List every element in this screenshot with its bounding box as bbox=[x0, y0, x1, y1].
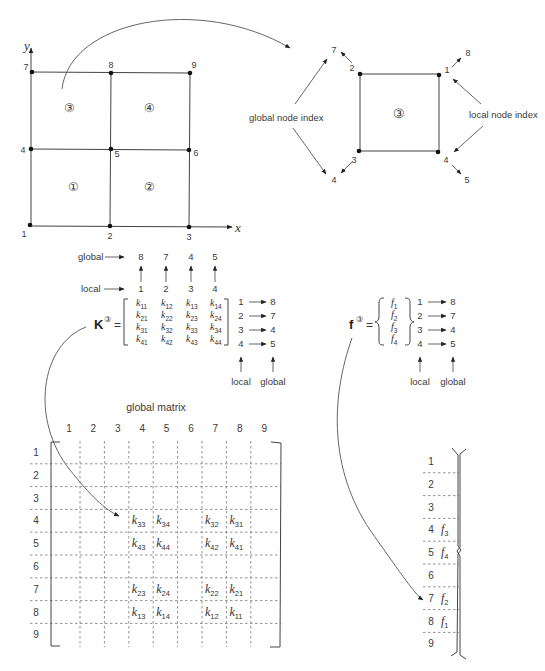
global-col-header: 7 bbox=[213, 423, 219, 434]
right-brace bbox=[405, 298, 414, 345]
stiff-col-local: 1 bbox=[138, 283, 143, 294]
mesh-element-label: ① bbox=[68, 180, 79, 194]
force-row-local: 2 bbox=[417, 310, 422, 321]
force-symbol: f bbox=[349, 317, 354, 332]
force-row-local: 1 bbox=[417, 296, 422, 307]
stiff-col-global: 4 bbox=[188, 251, 193, 262]
mesh-node-label-4: 4 bbox=[20, 145, 25, 155]
global-matrix-entry: k33 bbox=[132, 513, 146, 529]
global-matrix-entry: k31 bbox=[229, 513, 243, 529]
bottom-local-label: local bbox=[231, 376, 251, 387]
global-matrix-entry: k21 bbox=[229, 582, 243, 598]
global-row-header: 8 bbox=[33, 607, 39, 618]
force-bottom-local-label: local bbox=[410, 376, 430, 387]
mesh-node-7 bbox=[30, 70, 35, 75]
global-matrix-entry: k14 bbox=[156, 605, 170, 621]
local-node-3: 3 bbox=[351, 155, 356, 165]
global-matrix-entry: k22 bbox=[205, 582, 219, 598]
global-matrix-column-headers: 123456789 bbox=[66, 423, 267, 434]
stiff-row-local: 4 bbox=[238, 338, 243, 349]
stiffness-entries: k11k12k13k14k21k22k23k24k31k32k33k34k41k… bbox=[136, 297, 222, 346]
stiffness-equals: = bbox=[114, 318, 121, 332]
force-entry: f4 bbox=[391, 333, 398, 346]
global-vector-row-header: 1 bbox=[428, 456, 434, 467]
local-node-1: 1 bbox=[444, 65, 449, 75]
left-brace bbox=[375, 298, 384, 345]
global-left-bracket bbox=[51, 442, 60, 646]
stiffness-assembly-arrow bbox=[45, 327, 119, 516]
mesh-node-label-2: 2 bbox=[107, 231, 112, 241]
global-vector-row-header: 9 bbox=[428, 638, 434, 649]
mesh-nodes: 123456789 bbox=[20, 60, 198, 242]
stiff-row-local: 3 bbox=[238, 324, 243, 335]
force-row-local: 3 bbox=[417, 324, 422, 335]
global-node-8: 8 bbox=[465, 48, 470, 58]
mesh-node-8 bbox=[109, 71, 114, 76]
y-axis-label: y bbox=[22, 38, 30, 53]
global-matrix-title: global matrix bbox=[126, 401, 186, 413]
force-row-global: 8 bbox=[450, 296, 455, 307]
mesh-element-label: ④ bbox=[144, 101, 155, 115]
global-matrix-entry: k23 bbox=[132, 582, 146, 598]
stiffness-superscript: ③ bbox=[104, 315, 111, 324]
global-matrix-entry: k34 bbox=[156, 513, 170, 529]
mesh-node-4 bbox=[29, 147, 34, 152]
mesh-node-label-5: 5 bbox=[114, 149, 119, 159]
global-col-header: 8 bbox=[237, 423, 243, 434]
global-node-5: 5 bbox=[464, 175, 469, 185]
bottom-global-label: global bbox=[260, 376, 285, 387]
global-vector-entry: f4 bbox=[441, 545, 449, 561]
element-extract-arrow bbox=[62, 19, 290, 89]
element-detail-panel: ③ 2 1 3 4 7 8 4 5 global node index loca… bbox=[249, 45, 538, 185]
global-vector-entry: f3 bbox=[441, 522, 449, 538]
stiffness-row-mapping: 18273445 bbox=[238, 296, 275, 349]
global-matrix-entry: k43 bbox=[132, 536, 146, 552]
stiff-col-local: 4 bbox=[212, 283, 217, 294]
stiff-col-global: 7 bbox=[163, 251, 168, 262]
global-vector-row-headers: 123456789 bbox=[428, 456, 434, 649]
global-vector-entry: f1 bbox=[441, 614, 449, 630]
local-row-label: local bbox=[81, 283, 101, 294]
mesh-elements: ①②③④ bbox=[64, 101, 155, 194]
global-row-header: 5 bbox=[33, 538, 39, 549]
global-row-header: 3 bbox=[33, 493, 39, 504]
left-bracket bbox=[124, 299, 128, 345]
mesh-node-label-7: 7 bbox=[23, 62, 28, 72]
global-vector-row-header: 2 bbox=[428, 479, 434, 490]
global-node-4: 4 bbox=[331, 175, 336, 185]
local-node-4: 4 bbox=[443, 155, 448, 165]
mesh-node-5 bbox=[109, 147, 114, 152]
global-row-header: 4 bbox=[33, 515, 39, 526]
global-matrix-entry: k13 bbox=[132, 605, 146, 621]
global-matrix-entry: k24 bbox=[156, 582, 170, 598]
mesh-element-label: ③ bbox=[64, 101, 75, 115]
mesh-node-label-9: 9 bbox=[191, 60, 196, 70]
force-entries: f1f2f3f4 bbox=[391, 297, 398, 346]
global-vector-row-header: 6 bbox=[428, 570, 434, 581]
mesh-node-1 bbox=[28, 223, 33, 228]
stiff-col-local: 2 bbox=[163, 283, 168, 294]
global-matrix-row-headers: 123456789 bbox=[33, 447, 39, 640]
global-node-7: 7 bbox=[331, 45, 336, 55]
stiff-row-global: 4 bbox=[270, 324, 275, 335]
global-col-header: 4 bbox=[139, 423, 145, 434]
mesh-node-label-3: 3 bbox=[186, 232, 191, 242]
stiffness-entry: k42 bbox=[161, 333, 173, 346]
global-col-header: 9 bbox=[261, 423, 267, 434]
stiffness-symbol: K bbox=[94, 317, 104, 332]
global-matrix-panel: global matrix 123456789 123456789 k33k34… bbox=[30, 401, 281, 647]
global-vector-panel: 123456789 f3f4f2f1 bbox=[423, 448, 466, 659]
x-axis-label: x bbox=[234, 220, 241, 235]
mesh-node-label-8: 8 bbox=[108, 60, 113, 70]
stiffness-entry: k41 bbox=[136, 333, 148, 346]
force-row-local: 4 bbox=[417, 338, 422, 349]
stiff-row-global: 8 bbox=[270, 296, 275, 307]
global-col-header: 6 bbox=[188, 423, 194, 434]
stiff-col-global: 5 bbox=[212, 251, 217, 262]
mesh-node-2 bbox=[108, 224, 113, 229]
global-col-header: 2 bbox=[91, 423, 97, 434]
global-row-header: 7 bbox=[33, 584, 39, 595]
mesh-node-label-1: 1 bbox=[21, 229, 26, 239]
global-matrix-entry: k12 bbox=[205, 605, 219, 621]
stiff-col-local: 3 bbox=[188, 283, 193, 294]
